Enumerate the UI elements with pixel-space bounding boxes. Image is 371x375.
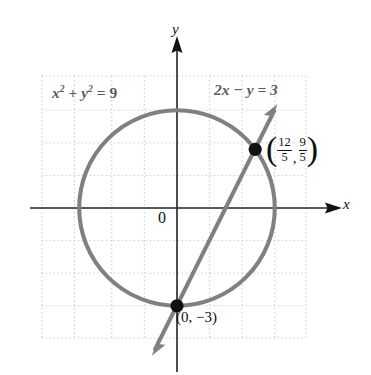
fraction-x: 12 5 [277, 136, 292, 163]
fraction-y-denominator: 5 [299, 150, 307, 164]
x-axis-label: x [343, 197, 350, 212]
close-paren: ) [307, 132, 318, 166]
circle-eq-equals: = [93, 84, 110, 101]
origin-label: 0 [158, 210, 166, 226]
point-marker-top [249, 143, 262, 156]
circle-eq-x: x [52, 84, 60, 101]
circle-eq-plus: + [65, 84, 82, 101]
fraction-x-denominator: 5 [277, 150, 292, 164]
open-paren: ( [266, 132, 277, 166]
circle-eq-y: y [81, 84, 88, 101]
grid-lines [42, 76, 306, 338]
fraction-y: 9 5 [299, 136, 307, 163]
point-label-bottom: (0, −3) [176, 310, 217, 325]
line-equation-label: 2x − y = 3 [214, 82, 278, 98]
y-axis-label: y [172, 22, 179, 37]
coordinate-comma: , [292, 151, 299, 169]
x-axis [30, 203, 342, 214]
circle-eq-value: 9 [109, 84, 117, 101]
fraction-x-numerator: 12 [277, 136, 292, 149]
circle-equation-label: x2 + y2 = 9 [52, 84, 117, 101]
fraction-y-numerator: 9 [299, 136, 307, 149]
graph-figure: x2 + y2 = 9 2x − y = 3 y x 0 (0, −3) ( 1… [0, 0, 371, 375]
point-label-top: ( 12 5 , 9 5 ) [266, 131, 318, 169]
